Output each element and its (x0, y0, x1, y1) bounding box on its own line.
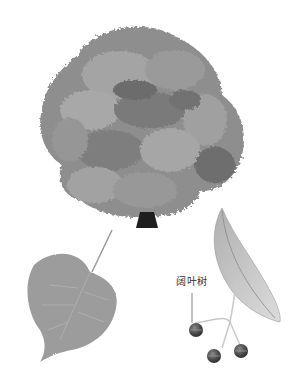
broadleaf-tree-illustration (0, 0, 303, 391)
heart-leaf (27, 230, 116, 362)
broadleaf-tree-label: 阔叶树 (176, 273, 208, 288)
tree-canopy (40, 27, 244, 217)
